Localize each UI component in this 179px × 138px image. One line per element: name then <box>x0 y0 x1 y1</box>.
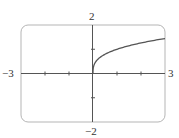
y-max-label: 2 <box>89 10 95 22</box>
function-curve <box>93 39 165 74</box>
x-max-label: 3 <box>168 67 174 79</box>
function-graph: −3 3 2 −2 <box>0 0 179 138</box>
x-min-label: −3 <box>2 67 14 79</box>
y-min-label: −2 <box>85 125 97 137</box>
